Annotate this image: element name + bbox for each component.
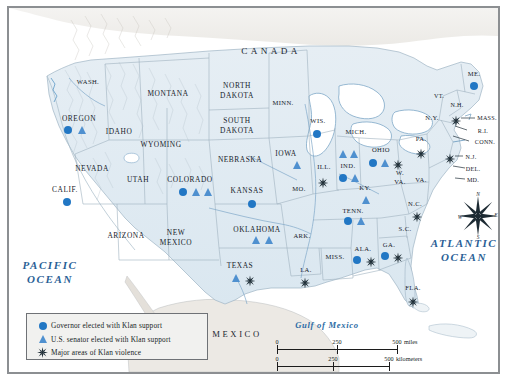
senator-marker-oklahoma <box>252 236 260 244</box>
scale-num-km-500: 500 <box>384 355 393 362</box>
scale-tick-km-0 <box>277 362 278 371</box>
legend-label-governor: Governor elected with Klan support <box>51 321 162 330</box>
senator-marker-tenn <box>357 217 365 225</box>
scale-tick-miles-250 <box>337 345 338 354</box>
compass-east-label: E <box>494 212 497 218</box>
violence-marker-ga <box>393 250 404 261</box>
map-scale-bar: 0 250 500 miles 0 250 500 kilometers <box>273 338 413 372</box>
violence-marker-ohio <box>393 157 404 168</box>
scale-num-km-0: 0 <box>275 355 278 362</box>
violence-marker-n-c <box>412 209 423 220</box>
violence-marker-fla <box>408 294 419 305</box>
compass-rose: N E S W <box>456 190 500 240</box>
legend-item-governor: Governor elected with Klan support <box>34 319 201 333</box>
senator-marker-oregon <box>78 126 86 134</box>
senator-marker-texas <box>232 274 240 282</box>
violence-marker-ala <box>366 254 377 265</box>
governor-marker-colorado <box>179 188 187 196</box>
violence-marker-mass <box>451 113 462 124</box>
governor-marker-wis <box>313 130 321 138</box>
governor-marker-oregon <box>64 126 72 134</box>
cuba-island <box>429 324 476 338</box>
governor-marker-calif <box>63 198 71 206</box>
governor-marker-ohio <box>369 159 377 167</box>
violence-marker-n-j <box>445 151 456 162</box>
violence-burst-icon <box>34 347 51 358</box>
legend-label-violence: Major areas of Klan violence <box>51 348 141 357</box>
cape-cod <box>465 114 471 120</box>
violence-marker-ill <box>318 175 329 186</box>
legend-item-senator: U.S. senator elected with Klan support <box>34 333 201 347</box>
governor-marker-ind <box>339 174 347 182</box>
senator-marker-ind <box>350 150 358 158</box>
legend-item-violence: Major areas of Klan violence <box>34 346 201 360</box>
governor-marker-me <box>470 82 478 90</box>
senator-marker-ohio <box>381 159 389 167</box>
senator-marker-ind <box>339 150 347 158</box>
map-legend: Governor elected with Klan support U.S. … <box>26 313 208 360</box>
senator-marker-ind <box>351 174 359 182</box>
legend-label-senator: U.S. senator elected with Klan support <box>51 335 171 344</box>
senator-marker-ky <box>362 196 370 204</box>
scale-unit-kilometers: kilometers <box>396 355 422 362</box>
senator-triangle-icon <box>34 335 51 343</box>
scale-tick-km-500 <box>389 362 390 371</box>
scale-tick-miles-500 <box>397 345 398 354</box>
senator-marker-colorado <box>192 188 200 196</box>
violence-marker-la <box>300 275 311 286</box>
senator-marker-iowa <box>293 161 301 169</box>
map-frame: CANADA MEXICO PACIFIC OCEAN ATLANTIC OCE… <box>7 6 500 374</box>
violence-marker-texas <box>245 273 256 284</box>
governor-marker-ga <box>381 252 389 260</box>
governor-marker-kansas <box>248 200 256 208</box>
compass-west-label: W <box>458 214 463 220</box>
scale-num-miles-250: 250 <box>332 338 341 345</box>
scale-num-miles-0: 0 <box>275 338 278 345</box>
compass-south-label: S <box>477 234 480 240</box>
scale-unit-miles: miles <box>404 338 417 345</box>
governor-marker-tenn <box>344 217 352 225</box>
governor-marker-ala <box>353 256 361 264</box>
scale-tick-miles-0 <box>277 345 278 354</box>
compass-north-label: N <box>476 191 480 197</box>
scale-num-miles-500: 500 <box>392 338 401 345</box>
violence-marker-pa <box>416 146 427 157</box>
scale-num-km-250: 250 <box>328 355 337 362</box>
scale-tick-km-250 <box>333 362 334 371</box>
governor-dot-icon <box>34 322 51 330</box>
senator-marker-oklahoma <box>265 236 273 244</box>
great-salt-lake <box>124 153 139 163</box>
us-landmass <box>47 46 483 308</box>
canada-landmass <box>9 8 498 46</box>
senator-marker-colorado <box>204 188 212 196</box>
map-figure: CANADA MEXICO PACIFIC OCEAN ATLANTIC OCE… <box>0 0 507 381</box>
